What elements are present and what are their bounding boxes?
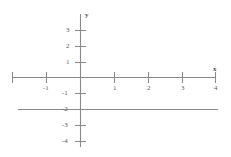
y-tick-label-minus3: -3 — [62, 122, 68, 129]
y-tick-label-1: 1 — [66, 59, 70, 66]
y-axis-label: y — [85, 12, 89, 19]
y-tick-label-minus1: -1 — [62, 90, 68, 97]
plot-canvas — [0, 0, 231, 157]
coordinate-graph-figure: y x -1 1 2 3 4 3 2 1 -1 -2 -3 -4 — [0, 0, 231, 157]
y-tick-label-3: 3 — [66, 27, 70, 34]
y-tick-label-2: 2 — [66, 43, 70, 50]
x-axis-label: x — [213, 66, 217, 73]
x-tick-label-3: 3 — [181, 85, 185, 92]
y-tick-label-minus2: -2 — [62, 106, 68, 113]
x-tick-label-4: 4 — [214, 85, 218, 92]
x-tick-label-minus1: -1 — [43, 85, 49, 92]
y-tick-label-minus4: -4 — [62, 138, 68, 145]
x-tick-label-1: 1 — [113, 85, 117, 92]
x-tick-label-2: 2 — [147, 85, 151, 92]
